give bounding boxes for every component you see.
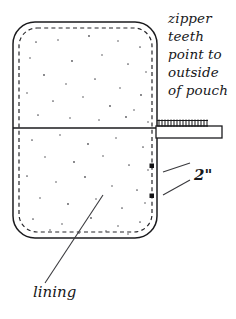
dimension-leader-lower <box>163 180 190 195</box>
zipper-note-line-5: of pouch <box>168 82 228 98</box>
lining-label: lining <box>33 283 76 301</box>
diagram-page: zipper teeth point to outside of pouch 2… <box>0 0 236 319</box>
zipper-tape <box>156 126 222 138</box>
zipper-assembly <box>156 120 222 139</box>
zipper-note-line-3: point to <box>168 46 222 62</box>
dimension-mark-lower <box>150 194 155 199</box>
zipper-note-line-4: outside <box>168 64 219 80</box>
lining-dashed-edge <box>19 28 152 232</box>
dimension-leader-upper <box>163 163 190 172</box>
pouch-outline <box>13 22 157 238</box>
dimension-mark-upper <box>150 164 155 169</box>
zipper-note-line-1: zipper <box>167 10 213 26</box>
pouch-diagram: zipper teeth point to outside of pouch 2… <box>0 0 236 319</box>
lining-leader-line <box>45 195 103 283</box>
zipper-note-line-2: teeth <box>168 28 204 44</box>
dimension-label: 2" <box>193 166 212 184</box>
fabric-speckle-texture <box>26 35 149 235</box>
zipper-note-text: zipper teeth point to outside of pouch <box>167 10 228 98</box>
